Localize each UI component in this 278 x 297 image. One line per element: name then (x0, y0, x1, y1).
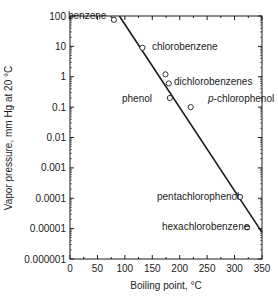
point-label: dichlorobenzenes (174, 76, 252, 87)
y-tick-label: 0.0001 (35, 193, 66, 204)
x-tick-label: 0 (67, 263, 73, 274)
data-point (140, 45, 145, 50)
point-label: chlorobenzene (152, 41, 218, 52)
y-axis-title: Vapor pressure, mm Hg at 20 °C (3, 66, 14, 210)
data-point (111, 17, 116, 22)
point-label: benzene (68, 10, 107, 21)
data-point (167, 95, 172, 100)
x-tick-label: 150 (144, 263, 161, 274)
y-tick-label: 0.00001 (30, 223, 67, 234)
y-tick-label: 0.1 (52, 102, 66, 113)
y-tick-label: 10 (55, 41, 67, 52)
y-tick-label: 0.01 (47, 132, 67, 143)
y-tick-label: 0.001 (41, 162, 66, 173)
data-point (166, 81, 171, 86)
x-tick-label: 100 (117, 263, 134, 274)
data-point (188, 105, 193, 110)
x-axis: 050100150200250300350 (67, 16, 271, 274)
data-point (163, 72, 168, 77)
x-tick-label: 350 (254, 263, 271, 274)
x-axis-title: Boiling point, °C (130, 280, 201, 291)
x-tick-label: 250 (199, 263, 216, 274)
vapor-pressure-chart: 1001010.10.010.0010.00010.000010.000001 … (0, 0, 278, 297)
x-tick-label: 200 (171, 263, 188, 274)
point-label: phenol (122, 93, 152, 104)
point-label: hexachlorobenzene (162, 221, 250, 232)
y-tick-label: 100 (49, 11, 66, 22)
point-labels: benzenechlorobenzenedichlorobenzenesphen… (68, 10, 274, 232)
point-label: p-chlorophenol (207, 93, 274, 104)
y-tick-label: 1 (60, 71, 66, 82)
point-label: pentachlorophenol (157, 191, 239, 202)
x-tick-label: 50 (92, 263, 104, 274)
y-tick-label: 0.000001 (24, 254, 66, 265)
x-tick-label: 300 (226, 263, 243, 274)
